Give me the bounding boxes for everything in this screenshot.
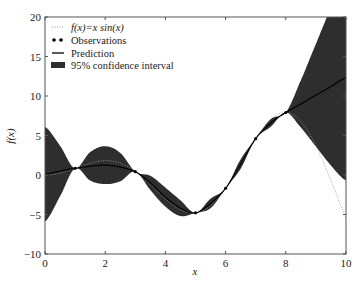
- y-tick-label: 5: [36, 130, 42, 142]
- legend-true-function-label: f(x)=x sin(x): [71, 22, 124, 34]
- y-tick-label: −10: [24, 248, 42, 260]
- y-tick-label: 15: [30, 51, 42, 63]
- x-tick-label: 4: [163, 257, 169, 269]
- legend-ci-label: 95% confidence interval: [71, 60, 174, 71]
- y-axis-label: f(x): [4, 128, 17, 144]
- x-axis-label: x: [192, 265, 198, 277]
- legend-ci-swatch: [51, 62, 65, 68]
- observation-point: [224, 187, 227, 190]
- plot-area: [45, 0, 346, 222]
- confidence-band: [45, 0, 346, 222]
- x-tick-label: 8: [283, 257, 289, 269]
- x-tick-label: 0: [42, 257, 48, 269]
- legend-observation-dot: [59, 38, 63, 42]
- x-tick-label: 2: [102, 257, 108, 269]
- x-tick-label: 6: [223, 257, 229, 269]
- observation-point: [74, 167, 77, 170]
- y-tick-label: 0: [36, 169, 42, 181]
- observation-point: [284, 111, 287, 114]
- x-tick-label: 10: [341, 257, 353, 269]
- observation-point: [134, 170, 137, 173]
- observation-point: [194, 211, 197, 214]
- y-tick-label: 20: [30, 11, 42, 23]
- legend-observations-label: Observations: [71, 35, 126, 46]
- y-tick-label: −5: [29, 209, 41, 221]
- y-tick-label: 10: [30, 90, 42, 102]
- gp-regression-chart: 0246810−10−505101520 x f(x) f(x)=x sin(x…: [0, 0, 362, 286]
- observation-point: [254, 137, 257, 140]
- legend: f(x)=x sin(x) Observations Prediction 95…: [51, 22, 174, 71]
- legend-prediction-label: Prediction: [71, 48, 115, 59]
- legend-observation-dot: [52, 38, 56, 42]
